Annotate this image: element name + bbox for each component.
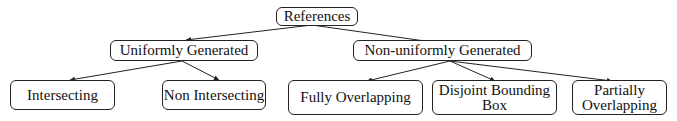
node-non-intersecting: Non Intersecting xyxy=(162,80,266,110)
edge-nonuniform-fully xyxy=(367,61,450,81)
edge-nonuniform-partially xyxy=(450,61,612,81)
node-disjoint-bounding-box: Disjoint Bounding Box xyxy=(432,80,557,115)
node-uniformly-generated: Uniformly Generated xyxy=(110,40,258,61)
node-label: Uniformly Generated xyxy=(120,43,249,58)
node-fully-overlapping: Fully Overlapping xyxy=(288,80,423,115)
node-non-uniformly-generated: Non-uniformly Generated xyxy=(353,40,532,61)
node-label: Fully Overlapping xyxy=(300,90,410,105)
edge-uniform-nonintersecting xyxy=(182,61,219,80)
node-label-line2: Overlapping xyxy=(582,98,657,113)
node-label: References xyxy=(284,9,351,24)
node-references: References xyxy=(276,7,358,26)
node-label: Intersecting xyxy=(27,88,98,103)
node-label-line1: Partially xyxy=(594,83,645,98)
node-label: Non Intersecting xyxy=(164,88,264,103)
node-intersecting: Intersecting xyxy=(10,80,115,110)
node-label-line1: Disjoint Bounding xyxy=(439,83,550,98)
node-partially-overlapping: Partially Overlapping xyxy=(572,80,667,115)
edge-references-uniform xyxy=(186,25,312,40)
node-label-line2: Box xyxy=(482,98,507,113)
edge-uniform-intersecting xyxy=(70,61,182,80)
node-label: Non-uniformly Generated xyxy=(364,43,520,58)
